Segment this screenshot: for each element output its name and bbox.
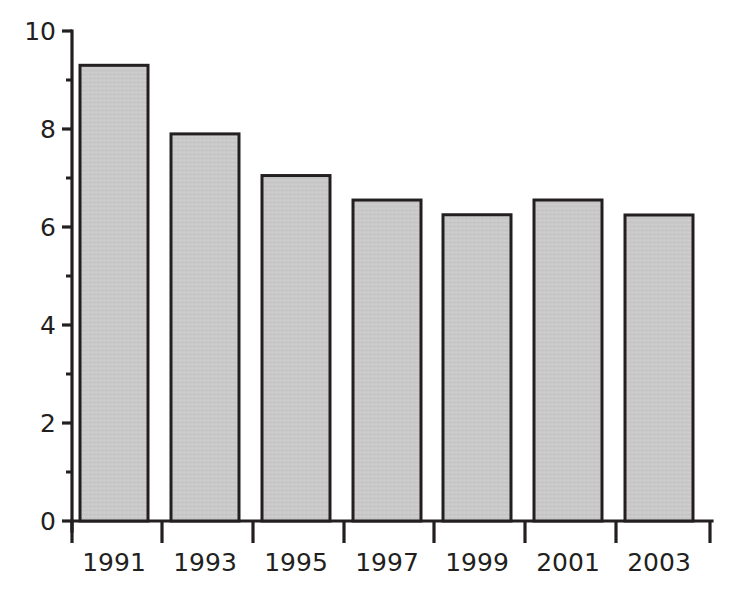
x-tick-label-1999: 1999 xyxy=(445,548,509,577)
bar-2001 xyxy=(534,200,602,521)
bar-chart-figure: 10 8 6 4 2 0 xyxy=(0,0,730,589)
y-tick-label-0: 0 xyxy=(40,507,56,536)
chart-canvas: 10 8 6 4 2 0 xyxy=(0,0,730,589)
bar-series xyxy=(80,65,693,521)
y-tick-label-2: 2 xyxy=(40,409,56,438)
bar-2003 xyxy=(625,215,693,521)
y-axis-tick-labels: 10 8 6 4 2 0 xyxy=(24,17,56,536)
x-tick-label-1993: 1993 xyxy=(173,548,237,577)
x-tick-label-2001: 2001 xyxy=(536,548,600,577)
x-tick-label-2003: 2003 xyxy=(627,548,691,577)
x-axis-ticks xyxy=(72,521,710,543)
bar-1991 xyxy=(80,65,148,521)
bar-1993 xyxy=(171,134,239,521)
y-tick-label-6: 6 xyxy=(40,213,56,242)
bar-1997 xyxy=(353,200,421,521)
x-tick-label-1995: 1995 xyxy=(264,548,328,577)
x-tick-label-1997: 1997 xyxy=(355,548,419,577)
y-tick-label-8: 8 xyxy=(40,115,56,144)
bar-1999 xyxy=(443,215,511,521)
y-tick-label-10: 10 xyxy=(24,17,56,46)
x-axis-tick-labels: 1991 1993 1995 1997 1999 2001 2003 xyxy=(82,548,691,577)
y-tick-label-4: 4 xyxy=(40,311,56,340)
x-tick-label-1991: 1991 xyxy=(82,548,146,577)
bar-1995 xyxy=(262,176,330,521)
